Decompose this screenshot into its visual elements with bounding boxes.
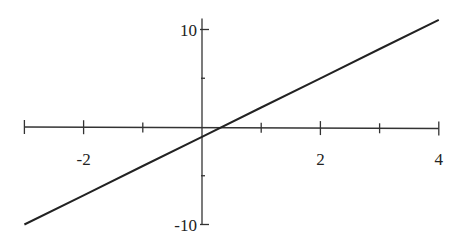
x-tick-label: 4 bbox=[435, 150, 444, 169]
x-tick-label: 2 bbox=[316, 150, 325, 169]
x-axis bbox=[24, 127, 438, 129]
data-line bbox=[24, 20, 438, 225]
y-tick-label: 10 bbox=[180, 21, 197, 40]
y-tick-label: -10 bbox=[174, 216, 197, 235]
plot-area bbox=[24, 20, 438, 225]
x-tick-label: -2 bbox=[77, 150, 91, 169]
line-chart: -22410-10 bbox=[0, 0, 468, 246]
